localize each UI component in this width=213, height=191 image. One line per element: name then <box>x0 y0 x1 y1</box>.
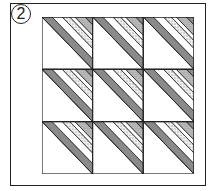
quilt-grid <box>42 17 194 174</box>
quilt-block <box>42 17 93 69</box>
quilt-block <box>143 17 194 69</box>
quilt-block <box>93 122 144 174</box>
quilt-block <box>42 69 93 121</box>
figure-number: 2 <box>17 6 26 22</box>
quilt-block <box>93 17 144 69</box>
quilt-block <box>93 69 144 121</box>
quilt-block <box>143 122 194 174</box>
figure-number-badge: 2 <box>11 4 31 24</box>
quilt-block <box>42 122 93 174</box>
quilt-block <box>143 69 194 121</box>
